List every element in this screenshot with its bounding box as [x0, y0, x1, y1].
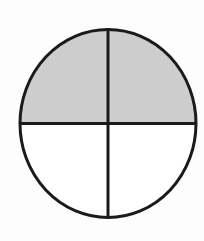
fraction-circle-figure — [0, 0, 204, 241]
fraction-circle-diagram — [0, 0, 204, 241]
